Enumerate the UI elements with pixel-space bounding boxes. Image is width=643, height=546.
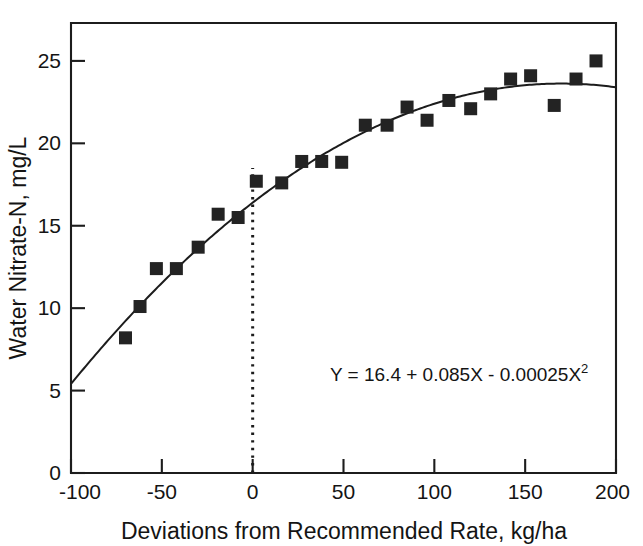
data-point	[570, 73, 583, 86]
chart-figure: 0510152025 -100-50050100150200 Deviation…	[0, 0, 643, 546]
x-tick-label--50: -50	[147, 480, 177, 503]
x-tick-label-200: 200	[595, 480, 630, 503]
plot-frame	[71, 23, 616, 473]
data-point	[548, 99, 561, 112]
x-tick-label-100: 100	[417, 480, 452, 503]
data-point	[315, 155, 328, 168]
data-point	[134, 300, 147, 313]
data-point	[504, 73, 517, 86]
data-point	[170, 262, 183, 275]
y-axis-ticks	[71, 61, 85, 473]
y-axis-tick-labels: 0510152025	[38, 49, 61, 484]
scatter-plot-canvas: 0510152025 -100-50050100150200 Deviation…	[0, 0, 643, 546]
regression-equation-text: Y = 16.4 + 0.085X - 0.00025X2	[330, 361, 588, 385]
y-tick-label-20: 20	[38, 131, 61, 154]
data-point	[275, 176, 288, 189]
quadratic-fit-curve	[71, 84, 616, 384]
y-tick-label-5: 5	[49, 379, 61, 402]
axis-frame-lines	[71, 23, 616, 473]
data-point	[421, 114, 434, 127]
fit-curve-group	[71, 84, 616, 384]
data-point	[484, 87, 497, 100]
data-point	[381, 119, 394, 132]
x-axis-title: Deviations from Recommended Rate, kg/ha	[121, 518, 567, 544]
x-tick-label-50: 50	[332, 480, 355, 503]
y-tick-label-25: 25	[38, 49, 61, 72]
data-point	[150, 262, 163, 275]
data-point	[250, 175, 263, 188]
data-point	[335, 156, 348, 169]
data-point	[212, 208, 225, 221]
data-point	[590, 54, 603, 67]
data-point	[232, 211, 245, 224]
data-point	[192, 241, 205, 254]
regression-equation-body: Y = 16.4 + 0.085X - 0.00025X	[330, 364, 581, 385]
data-point	[359, 119, 372, 132]
y-axis-title: Water Nitrate-N, mg/L	[5, 136, 31, 359]
data-point	[401, 101, 414, 114]
data-point	[119, 331, 132, 344]
data-point	[442, 94, 455, 107]
x-tick-label-0: 0	[247, 480, 259, 503]
x-tick-label--100: -100	[59, 480, 101, 503]
regression-equation-exponent: 2	[581, 361, 588, 376]
data-point	[295, 155, 308, 168]
x-tick-label-150: 150	[508, 480, 543, 503]
x-axis-tick-labels: -100-50050100150200	[59, 480, 630, 503]
x-axis-ticks	[71, 459, 616, 473]
data-point-markers	[119, 54, 603, 344]
equation-annotation: Y = 16.4 + 0.085X - 0.00025X2	[330, 361, 588, 385]
y-tick-label-10: 10	[38, 296, 61, 319]
data-point	[524, 69, 537, 82]
data-point	[464, 102, 477, 115]
y-tick-label-15: 15	[38, 214, 61, 237]
